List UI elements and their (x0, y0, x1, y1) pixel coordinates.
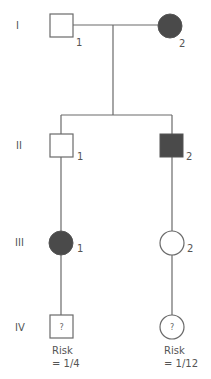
individual-number-I2: 2 (179, 38, 185, 49)
unknown-mark-IV1: ? (59, 323, 63, 332)
risk-value-IV1: = 1/4 (52, 358, 80, 369)
individual-I1-male-unaffected (50, 14, 73, 37)
generation-label-II: II (16, 140, 22, 151)
generation-label-I: I (16, 20, 19, 31)
risk-label-IV2: Risk (164, 345, 185, 356)
individual-number-II2: 2 (186, 151, 192, 162)
risk-label-IV1: Risk (52, 345, 73, 356)
individual-number-III1: 1 (77, 243, 83, 254)
generation-label-III: III (15, 237, 24, 248)
individual-III2-female-unaffected (160, 231, 184, 255)
individual-III1-female-affected (49, 231, 73, 255)
risk-value-IV2: = 1/12 (164, 358, 198, 369)
individual-I2-female-affected (158, 14, 182, 38)
generation-label-IV: IV (15, 322, 25, 333)
individual-II2-male-affected (160, 134, 183, 157)
unknown-mark-IV2: ? (170, 323, 174, 332)
individual-number-I1: 1 (76, 37, 82, 48)
individual-II1-male-unaffected (50, 134, 73, 157)
individual-number-III2: 2 (187, 243, 193, 254)
individual-number-II1: 1 (77, 151, 83, 162)
pedigree-diagram: I II III IV 1 2 1 2 1 2 ? ? Risk = 1/4 R… (0, 0, 211, 379)
connector-lines (61, 25, 172, 315)
